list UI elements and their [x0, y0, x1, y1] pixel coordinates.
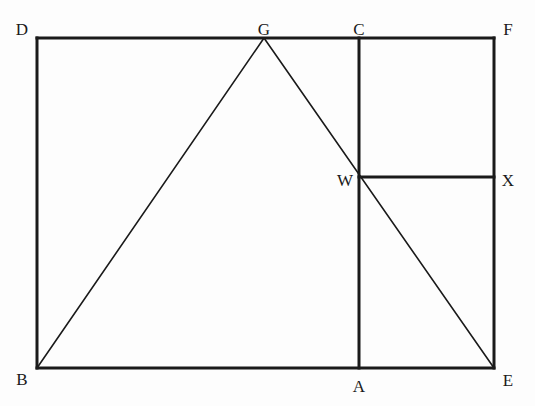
triangle-diagonals [37, 38, 494, 368]
rectangle-outline [37, 38, 494, 368]
vertex-label-B: B [16, 371, 27, 388]
geometry-figure: D G C F W X B A E [0, 0, 535, 406]
diagonal-BG [37, 38, 264, 368]
vertex-label-G: G [258, 21, 270, 38]
figure-canvas [0, 0, 535, 406]
vertex-label-F: F [503, 21, 512, 38]
vertex-label-C: C [353, 21, 364, 38]
vertex-label-E: E [503, 372, 513, 389]
vertex-label-W: W [337, 172, 353, 189]
diagonal-GE [264, 38, 494, 368]
vertex-label-D: D [16, 21, 28, 38]
vertex-label-A: A [353, 378, 365, 395]
vertex-label-X: X [502, 172, 514, 189]
